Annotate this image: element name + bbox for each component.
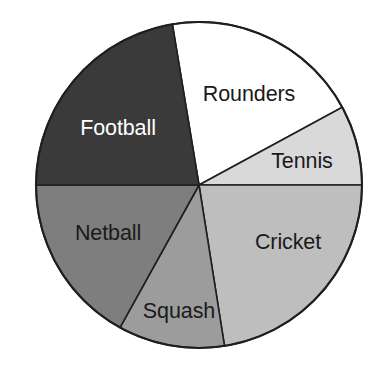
pie-chart-svg: RoundersTennisCricketSquashNetballFootba… [0, 0, 392, 373]
pie-slice-label-tennis: Tennis [271, 149, 333, 173]
pie-slice-football[interactable] [36, 24, 199, 185]
pie-slice-label-football: Football [80, 116, 156, 140]
pie-chart-figure: RoundersTennisCricketSquashNetballFootba… [0, 0, 392, 373]
pie-slice-label-rounders: Rounders [203, 82, 295, 106]
pie-slice-label-cricket: Cricket [255, 230, 321, 254]
pie-slice-label-netball: Netball [75, 221, 141, 245]
pie-slice-label-squash: Squash [143, 299, 215, 323]
pie-slice-cricket[interactable] [199, 185, 362, 346]
